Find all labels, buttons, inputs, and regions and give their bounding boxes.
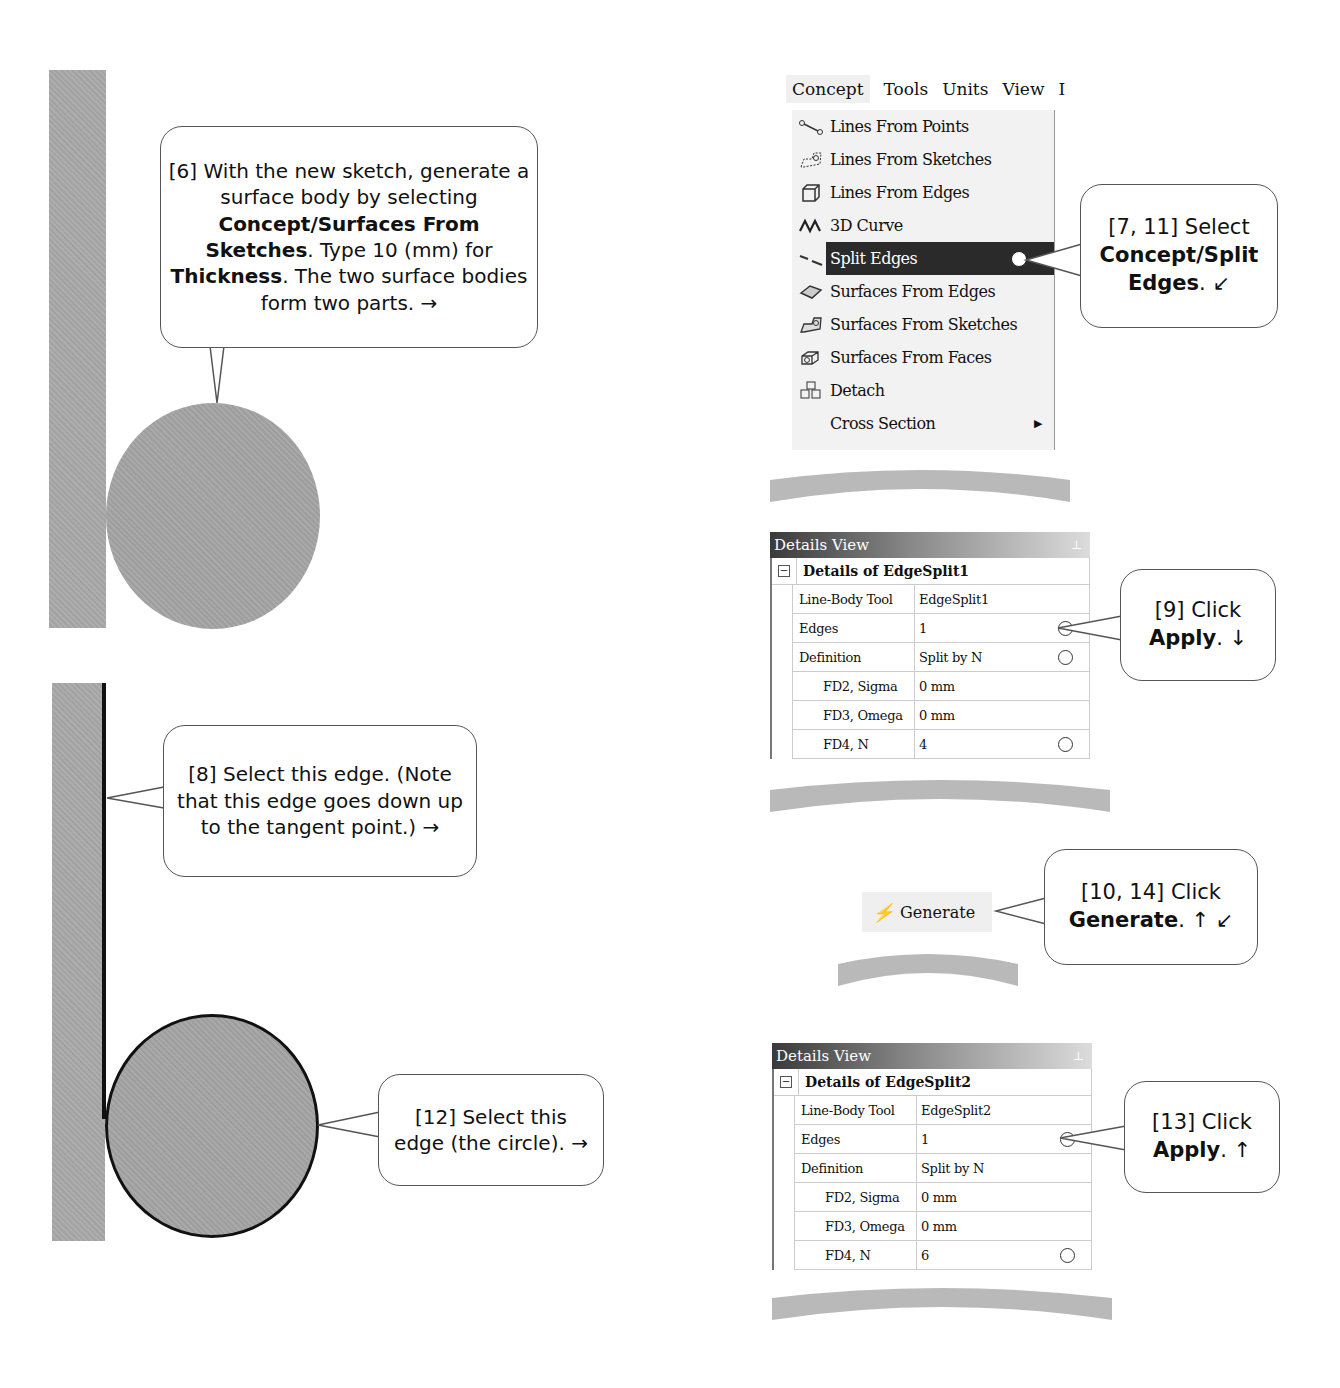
shadow-decoration (770, 466, 1070, 502)
detach-icon (796, 379, 826, 403)
menu-item-3d-curve[interactable]: 3D Curve (792, 209, 1054, 242)
menu-item-lines-from-sketches[interactable]: Lines From Sketches (792, 143, 1054, 176)
detail-row-fd3-omega[interactable]: FD3, Omega0 mm (794, 1212, 1092, 1241)
callout-step6: [6] With the new sketch, generate a surf… (160, 126, 538, 348)
callout-step10-14: [10, 14] Click Generate. ↑ ↙ (1044, 849, 1258, 965)
selection-marker (1011, 251, 1027, 267)
menu-units[interactable]: Units (942, 79, 988, 99)
callout-step12: [12] Select this edge (the circle). → (378, 1074, 604, 1186)
details-group-header: − Details of EdgeSplit2 (774, 1069, 1092, 1096)
details-view-header: Details View ⊥ (770, 532, 1090, 558)
detail-row-edges[interactable]: Edges1 (794, 1125, 1092, 1154)
ring-marker (1058, 737, 1073, 752)
detail-row-fd4-n[interactable]: FD4, N4 (792, 730, 1090, 759)
lines-from-points-icon (796, 115, 826, 139)
submenu-arrow-icon: ▶ (1034, 417, 1042, 430)
selected-circle-edge[interactable] (105, 1014, 319, 1238)
detail-row-fd4-n[interactable]: FD4, N6 (794, 1241, 1092, 1270)
collapse-icon[interactable]: − (778, 565, 790, 577)
generate-button[interactable]: ⚡ Generate (862, 892, 992, 932)
surface-body-rectangle (49, 70, 106, 628)
menu-concept[interactable]: Concept (786, 75, 870, 103)
ring-marker (1060, 1248, 1075, 1263)
detail-row-line-body-tool[interactable]: Line-Body ToolEdgeSplit1 (792, 585, 1090, 614)
menu-item-surfaces-from-edges[interactable]: Surfaces From Edges (792, 275, 1054, 308)
shadow-decoration (770, 776, 1110, 812)
ring-marker (1058, 650, 1073, 665)
split-edges-icon (796, 247, 826, 271)
detail-row-fd3-omega[interactable]: FD3, Omega0 mm (792, 701, 1090, 730)
details-view-edgesplit1: Details View ⊥ − Details of EdgeSplit1 L… (770, 532, 1090, 759)
generate-lightning-icon: ⚡ (872, 902, 894, 923)
menu-item-lines-from-edges[interactable]: Lines From Edges (792, 176, 1054, 209)
pin-icon[interactable]: ⊥ (1071, 538, 1082, 552)
menu-item-surfaces-from-faces[interactable]: Surfaces From Faces (792, 341, 1054, 374)
menu-tools[interactable]: Tools (884, 79, 929, 99)
selected-straight-edge[interactable] (102, 683, 106, 1119)
menu-item-lines-from-points[interactable]: Lines From Points (792, 110, 1054, 143)
callout-step7-11: [7, 11] Select Concept/Split Edges. ↙ (1080, 184, 1278, 328)
surface-body-rectangle-2 (52, 683, 105, 1241)
detail-row-fd2-sigma[interactable]: FD2, Sigma0 mm (792, 672, 1090, 701)
details-group-header: − Details of EdgeSplit1 (772, 558, 1090, 585)
callout-step13: [13] Click Apply. ↑ (1124, 1081, 1280, 1193)
pin-icon[interactable]: ⊥ (1073, 1049, 1084, 1063)
ring-marker (1058, 621, 1073, 636)
surfaces-from-faces-icon (796, 346, 826, 370)
3d-curve-icon (796, 214, 826, 238)
menu-item-detach[interactable]: Detach (792, 374, 1054, 407)
menu-item-cross-section[interactable]: Cross Section ▶ (792, 407, 1054, 440)
ring-marker (1060, 1132, 1075, 1147)
detail-row-edges[interactable]: Edges1 (792, 614, 1090, 643)
surface-body-circle (106, 403, 320, 629)
callout-step9: [9] Click Apply. ↓ (1120, 569, 1276, 681)
shadow-decoration (838, 950, 1018, 986)
shadow-decoration (772, 1284, 1112, 1320)
detail-row-fd2-sigma[interactable]: FD2, Sigma0 mm (794, 1183, 1092, 1212)
lines-from-sketches-icon (796, 148, 826, 172)
collapse-icon[interactable]: − (780, 1076, 792, 1088)
menu-view[interactable]: View (1002, 79, 1044, 99)
lines-from-edges-icon (796, 181, 826, 205)
callout-step8: [8] Select this edge. (Note that this ed… (163, 725, 477, 877)
detail-row-definition[interactable]: DefinitionSplit by N (792, 643, 1090, 672)
menu-item-surfaces-from-sketches[interactable]: Surfaces From Sketches (792, 308, 1054, 341)
detail-row-definition[interactable]: DefinitionSplit by N (794, 1154, 1092, 1183)
surfaces-from-sketches-icon (796, 313, 826, 337)
menu-bar: Concept Tools Units View I (792, 72, 1079, 106)
menu-truncated: I (1058, 79, 1065, 99)
concept-menu-screenshot: Concept Tools Units View I Lines From Po… (782, 66, 1072, 506)
concept-dropdown: Lines From Points Lines From Sketches Li… (792, 110, 1055, 450)
surfaces-from-edges-icon (796, 280, 826, 304)
detail-row-line-body-tool[interactable]: Line-Body ToolEdgeSplit2 (794, 1096, 1092, 1125)
details-view-header: Details View ⊥ (772, 1043, 1092, 1069)
details-view-edgesplit2: Details View ⊥ − Details of EdgeSplit2 L… (772, 1043, 1092, 1270)
